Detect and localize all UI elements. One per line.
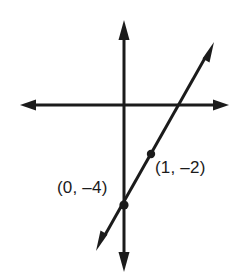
graph-line-upper-arrow-icon bbox=[203, 42, 215, 63]
coordinate-plane-svg bbox=[0, 0, 236, 274]
x-axis-right-arrow-icon bbox=[213, 100, 229, 111]
graph-line-segment bbox=[105, 58, 205, 235]
graph-line-lower-arrow-icon bbox=[96, 231, 108, 252]
data-point-label-0-minus4: (0, –4) bbox=[57, 179, 108, 197]
y-axis-bottom-arrow-icon bbox=[119, 252, 130, 272]
data-point-0-minus4 bbox=[119, 200, 128, 209]
data-point-1-minus2 bbox=[147, 150, 155, 158]
graph-figure: (0, –4) (1, –2) bbox=[0, 0, 236, 274]
x-axis-left-arrow-icon bbox=[20, 100, 36, 111]
data-point-label-1-minus2: (1, –2) bbox=[155, 159, 206, 177]
y-axis-top-arrow-icon bbox=[119, 20, 130, 40]
